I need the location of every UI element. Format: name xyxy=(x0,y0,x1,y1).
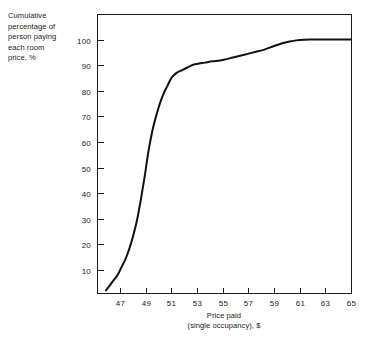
x-tick-label: 55 xyxy=(219,299,229,308)
x-tick-label: 59 xyxy=(270,299,280,308)
y-tick-label: 80 xyxy=(82,88,92,97)
x-tick-label: 49 xyxy=(142,299,152,308)
y-tick-label: 20 xyxy=(82,241,92,250)
y-tick-label: 100 xyxy=(77,37,91,46)
x-tick-label: 51 xyxy=(167,299,177,308)
y-tick-label: 60 xyxy=(82,139,92,148)
plot-frame xyxy=(98,15,352,294)
y-tick-label: 30 xyxy=(82,216,92,225)
x-tick-label: 53 xyxy=(193,299,203,308)
data-curve-cumulative-percentage xyxy=(106,40,351,291)
y-axis-ticks: 102030405060708090100 xyxy=(77,37,103,276)
x-tick-label: 63 xyxy=(321,299,331,308)
y-tick-label: 10 xyxy=(82,267,92,276)
x-axis-label: Price paid (single occupancy), $ xyxy=(97,311,351,332)
x-tick-label: 61 xyxy=(296,299,306,308)
x-tick-label: 47 xyxy=(116,299,126,308)
y-tick-label: 90 xyxy=(82,62,92,71)
y-tick-label: 70 xyxy=(82,113,92,122)
x-axis-ticks: 47495153555759616365 xyxy=(116,288,357,309)
y-tick-label: 40 xyxy=(82,190,92,199)
plot-area: 102030405060708090100 474951535557596163… xyxy=(0,0,365,338)
x-tick-label: 57 xyxy=(244,299,254,308)
chart-container: Cumulative percentage of person paying e… xyxy=(0,0,365,338)
x-tick-label: 65 xyxy=(347,299,357,308)
y-tick-label: 50 xyxy=(82,165,92,174)
